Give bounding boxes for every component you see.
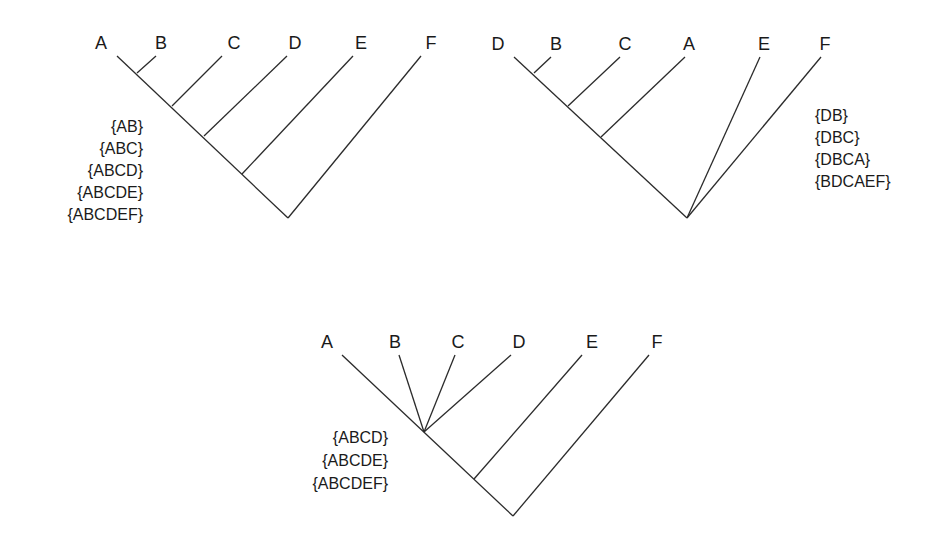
tree-1-branch-d [204,56,287,136]
tree-3-clade-label: {ABCDEF} [312,475,388,492]
tree-1-clade-label: {ABCD} [88,162,144,179]
tree-3-branch-f [513,355,649,516]
tree-1-branch-b [137,56,156,73]
tree-1-taxon-label: C [228,33,241,53]
tree-3-taxon-label: F [652,332,663,352]
tree-2-taxon-label: D [492,34,505,54]
tree-3-branch-d [424,355,511,432]
tree-3-branch-c [424,355,455,432]
tree-2-taxon-label: B [550,34,562,54]
tree-2-taxon-label: C [619,34,632,54]
tree-2-taxon-label: E [758,34,770,54]
tree-1: A B C D E F {AB} {ABC} {ABCD} {ABCDE} {A… [67,33,436,223]
tree-1-taxon-label: D [289,33,302,53]
tree-3-clade-label: {ABCD} [333,429,389,446]
tree-2-taxon-label: F [820,34,831,54]
tree-2-clade-label: {DBCA} [815,151,871,168]
tree-2-branch-d-to-root [514,57,687,218]
tree-1-taxon-label: E [355,33,367,53]
tree-3-taxon-label: E [586,332,598,352]
tree-1-clade-label: {AB} [111,118,144,135]
tree-2: D B C A E F {DB} {DBC} {DBCA} {BDCAEF} [492,34,892,218]
tree-2-clade-label: {DB} [815,107,849,124]
tree-2-branch-a [601,57,685,137]
tree-3-taxon-label: C [452,332,465,352]
tree-1-taxon-label: B [155,33,167,53]
tree-3: A B C D E F {ABCD} {ABCDE} {ABCDEF} [312,332,662,516]
tree-2-taxon-label: A [683,34,695,54]
tree-1-clade-label: {ABCDEF} [67,206,143,223]
tree-1-taxon-label: F [426,33,437,53]
tree-1-branch-e [242,56,353,174]
cladogram-figure: A B C D E F {AB} {ABC} {ABCD} {ABCDE} {A… [0,0,950,542]
tree-2-clade-label: {DBC} [815,129,860,146]
tree-3-taxon-label: D [513,332,526,352]
tree-3-clade-label: {ABCDE} [322,452,388,469]
tree-1-clade-label: {ABC} [99,140,143,157]
tree-2-clade-label: {BDCAEF} [815,173,891,190]
tree-2-branch-f [687,57,821,218]
tree-2-branch-e [687,57,760,218]
tree-2-branch-c [568,57,620,106]
tree-1-branch-f [288,56,421,218]
tree-3-taxon-label: B [389,332,401,352]
tree-1-taxon-label: A [95,33,107,53]
tree-1-clade-label: {ABCDE} [77,184,143,201]
tree-1-branch-c [172,56,222,106]
tree-3-taxon-label: A [321,332,333,352]
tree-2-branch-b [534,57,551,73]
